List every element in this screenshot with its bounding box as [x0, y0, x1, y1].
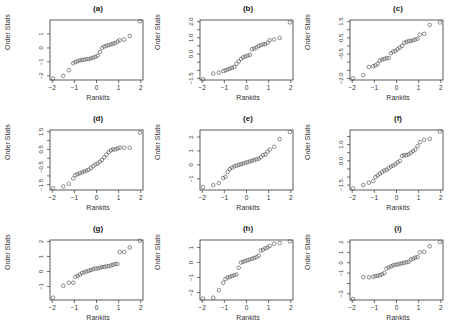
y-axis-label: Order Stats: [4, 234, 11, 270]
data-point: [409, 39, 413, 43]
data-point: [78, 59, 82, 63]
data-point: [252, 47, 256, 51]
data-point: [248, 160, 252, 164]
data-point: [367, 275, 371, 279]
y-tick-label: −1: [38, 58, 44, 66]
data-point: [128, 34, 132, 38]
data-point: [116, 147, 120, 151]
data-point: [422, 250, 426, 254]
qq-panel-f: (f) −2−1012−1.50.01.0 Order Stats Rankit…: [300, 110, 449, 220]
qq-panel-d: (d) −2−1012−1.5−0.50.51.5 Order Stats Ra…: [0, 110, 150, 220]
y-tick-label: −1.5: [338, 179, 344, 192]
y-tick-label: 0.0: [338, 156, 344, 165]
x-tick-label: 1: [117, 304, 121, 311]
x-tick-label: 1: [267, 304, 271, 311]
data-point: [259, 43, 263, 47]
y-tick-label: 0: [38, 269, 44, 273]
data-point: [239, 162, 243, 166]
data-point: [217, 71, 221, 75]
data-point: [438, 21, 442, 25]
data-point: [237, 266, 241, 270]
data-point: [414, 38, 418, 42]
x-axis-label: Rankits: [150, 204, 300, 211]
data-point: [61, 284, 65, 288]
data-point: [87, 57, 91, 61]
y-tick-label: 0: [188, 260, 194, 264]
y-axis-label: Order Stats: [154, 14, 161, 50]
qq-panel-h: (h) −2−1012−2−101 Order Stats Rankits: [150, 220, 300, 330]
x-tick-label: −2: [199, 84, 207, 91]
data-point: [89, 57, 93, 61]
data-point: [378, 273, 382, 277]
y-tick-label: −2.0: [338, 72, 344, 85]
data-point: [272, 145, 276, 149]
y-tick-label: −0.5: [338, 47, 344, 60]
data-point: [387, 266, 391, 270]
data-point: [83, 58, 87, 62]
y-tick-label: 1: [38, 254, 44, 258]
data-point: [201, 185, 205, 189]
data-point: [122, 38, 126, 42]
data-point: [235, 164, 239, 168]
y-tick-label: 0.0: [188, 49, 194, 58]
qq-panel-i: (i) −2−1012−3−1012 Order Stats Rankits: [300, 220, 449, 330]
data-point: [248, 258, 252, 262]
data-point: [61, 74, 65, 78]
data-point: [361, 183, 365, 187]
y-tick-label: 1.5: [338, 17, 344, 26]
data-point: [250, 47, 254, 51]
data-point: [67, 281, 71, 285]
data-point: [211, 296, 215, 300]
x-tick-label: 1: [267, 84, 271, 91]
plot-frame: [350, 240, 443, 300]
data-point: [438, 240, 442, 244]
y-tick-label: −1: [188, 273, 194, 281]
data-point: [128, 146, 132, 150]
data-point: [71, 281, 75, 285]
data-point: [409, 258, 413, 262]
data-point: [83, 170, 87, 174]
x-axis-label: Rankits: [300, 204, 449, 211]
data-point: [288, 130, 292, 134]
data-point: [272, 242, 276, 246]
data-point: [367, 181, 371, 185]
data-point: [246, 54, 250, 58]
data-point: [405, 40, 409, 44]
data-point: [71, 177, 75, 181]
data-point: [102, 265, 106, 269]
data-point: [230, 274, 234, 278]
x-tick-label: 2: [439, 84, 443, 91]
data-point: [85, 270, 89, 274]
y-tick-label: 1: [188, 149, 194, 153]
x-tick-label: −1: [371, 84, 379, 91]
data-point: [378, 59, 382, 63]
x-tick-label: −1: [221, 304, 229, 311]
data-point: [114, 148, 118, 152]
plot-frame: [350, 130, 443, 190]
data-point: [250, 159, 254, 163]
data-point: [244, 161, 248, 165]
y-axis-label: Order Stats: [304, 14, 311, 50]
y-tick-label: 2: [338, 240, 344, 244]
x-tick-label: 0: [245, 194, 249, 201]
x-tick-label: −2: [199, 304, 207, 311]
y-tick-label: −1.5: [38, 178, 44, 191]
x-tick-label: −2: [349, 304, 357, 311]
x-axis-label: Rankits: [300, 94, 449, 101]
qq-plot-grid: (a) −2−1012−2−101 Order Stats Rankits (b…: [0, 0, 449, 332]
data-point: [83, 270, 87, 274]
data-point: [380, 272, 384, 276]
data-point: [252, 158, 256, 162]
data-point: [385, 267, 389, 271]
x-tick-label: 0: [395, 304, 399, 311]
data-point: [217, 181, 221, 185]
data-point: [61, 185, 65, 189]
data-point: [428, 244, 432, 248]
y-tick-label: 0: [188, 163, 194, 167]
y-tick-label: −1.5: [188, 72, 194, 85]
x-tick-label: 2: [439, 304, 443, 311]
x-tick-label: 1: [417, 194, 421, 201]
data-point: [416, 255, 420, 259]
data-point: [228, 275, 232, 279]
x-tick-label: 2: [139, 194, 143, 201]
